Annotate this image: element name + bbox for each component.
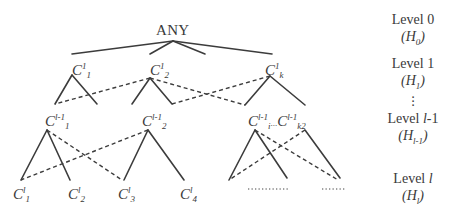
node-cl1-2: Cl-12 [142,110,167,134]
level-name: Level l-1 [373,110,452,127]
node-sup: l-1 [55,112,65,122]
node-base: C [13,186,23,202]
h-base: H [407,188,417,203]
edge-any-c1-1 [72,41,173,54]
node-base: C [150,62,160,78]
level-suffix: -1 [427,111,439,126]
level-h: (Hl) [373,187,452,210]
node-sub: 2 [165,70,170,80]
level-var: l [429,171,433,186]
node-base: C [142,113,152,129]
node-sub: 2 [162,121,167,131]
node-c1-k: C1k [265,59,284,83]
node-base: C [180,186,190,202]
node-base: C [72,62,82,78]
node-sup: l-1 [287,112,297,122]
node-sub: k [280,70,284,80]
level-name: Level l [373,170,452,187]
h-base: H [406,29,416,44]
edge-cl1-1-right [47,130,70,180]
node-base: C [45,113,55,129]
level-l-label: Level l (Hl) [373,170,452,210]
node-sub: 4 [193,194,198,204]
node-any: ANY [156,23,189,38]
node-cl-3: Cl3 [118,183,135,207]
node-cl1-1: Cl-11 [45,110,70,134]
level-prefix: Level [393,171,428,186]
node-sub: 3 [131,194,136,204]
node-sub: 1 [87,70,92,80]
dash-c1-k-to-left [172,76,270,104]
level-h: (H0) [373,28,452,51]
level-0-label: Level 0 (H0) [373,11,452,51]
node-base: C [248,113,258,129]
node-base: C [118,186,128,202]
node-base: C [68,186,78,202]
level-l-minus-1-label: Level l-1 (Hl-1) [373,110,452,150]
vertical-ellipsis: ··· [403,96,423,108]
edge-cl1-2-right [148,130,184,180]
level-h: (Hl-1) [373,127,452,150]
node-cl-2: Cl2 [68,183,85,207]
node-sub: 1 [65,121,70,131]
node-cl-1: Cl1 [13,183,30,207]
edge-c1-1-left [55,75,72,104]
h-base: H [403,128,413,143]
level-1-label: Level 1 (H1) [373,55,452,95]
node-c1-1: C11 [72,59,91,83]
edge-cl1-i-left [229,130,255,180]
level-name: Level 1 [373,55,452,72]
node-sub: 2 [81,194,86,204]
node-sub: k2 [297,121,306,131]
h-sub: 1 [416,81,421,91]
node-base: C [277,113,287,129]
dash-c1-2-to-left [55,78,150,104]
edge-cl1-1-left [21,130,47,180]
node-sup: l-1 [152,112,162,122]
h-base: H [406,73,416,88]
node-base: C [265,62,275,78]
level-name: Level 0 [373,11,452,28]
node-cl1-i-k2: Cl-1i...Cl-1k2 [248,110,306,134]
h-sub: 0 [416,37,421,47]
level-prefix: Level [388,111,423,126]
node-sup: l-1 [258,112,268,122]
h-sub: l [417,196,420,206]
node-cl-4: Cl4 [180,183,197,207]
node-c1-2: C12 [150,59,169,83]
node-sub: 1 [26,194,31,204]
edge-cl1-i-right [255,130,287,178]
h-sub: l-1 [413,136,423,146]
